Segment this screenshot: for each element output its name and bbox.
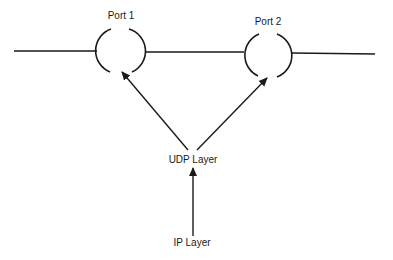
port-2-label: Port 2 [255,16,282,27]
port-1-icon [96,29,146,72]
port-2-icon [245,34,292,77]
port-1-label: Port 1 [108,10,135,21]
udp-layer-label: UDP Layer [169,154,218,165]
arrow-udp-to-port-1 [122,72,188,150]
udp-port-diagram: Port 1 Port 2 UDP Layer IP Layer [0,0,393,260]
right-line [292,53,375,54]
ip-layer-label: IP Layer [173,237,211,248]
arrow-udp-to-port-2 [197,78,267,150]
